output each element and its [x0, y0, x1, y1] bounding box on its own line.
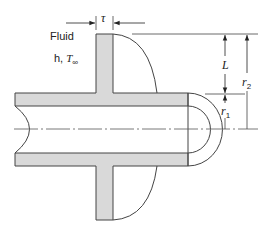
fin-diagram: Fluid h, T∞ τ L r2 r1	[0, 0, 270, 235]
temp-profile-left	[15, 106, 30, 153]
fin-lower	[15, 153, 188, 220]
t-inf-subscript: ∞	[72, 58, 78, 67]
temp-profile-upper	[113, 34, 157, 93]
outer-radius-arc	[188, 93, 222, 166]
tau-label: τ	[101, 12, 105, 24]
inner-radius-arc	[188, 106, 210, 153]
temp-profile-lower	[113, 166, 157, 220]
r1-label: r1	[221, 105, 230, 120]
fin-upper	[15, 34, 188, 106]
fluid-label: Fluid	[50, 31, 74, 42]
h-label: h,	[54, 52, 66, 64]
convection-label: h, T∞	[54, 53, 78, 67]
L-label: L	[222, 59, 229, 71]
r2-label: r2	[242, 76, 251, 91]
